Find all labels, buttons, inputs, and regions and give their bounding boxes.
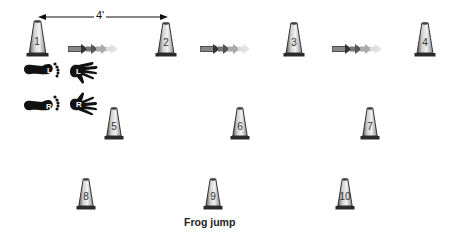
cone-number: 7 [360,121,380,132]
svg-text:L: L [47,66,52,75]
direction-arrow-icon [332,41,388,59]
right-foot-icon: R [22,94,64,114]
cone-6: 6 [230,107,250,140]
direction-arrow-icon [200,41,256,59]
cone-number: 9 [203,191,223,202]
cone-3: 3 [283,22,305,57]
cone-number: 1 [26,36,49,47]
left-hand-icon: L [68,60,100,84]
cone-number: 3 [283,37,305,48]
cone-9: 9 [203,178,223,210]
cone-number: 10 [335,191,355,202]
svg-text:R: R [46,102,52,111]
cone-4: 4 [414,22,436,57]
svg-text:L: L [76,67,81,76]
figure-caption: Frog jump [184,216,235,228]
direction-arrow-icon [68,41,124,59]
cone-number: 6 [230,121,250,132]
cone-7: 7 [360,107,380,140]
dimension-label: 4' [94,9,106,21]
svg-text:R: R [76,100,82,109]
cone-5: 5 [104,107,124,140]
hand-foot-legend: L L R R [22,60,102,118]
cone-number: 5 [104,121,124,132]
cone-number: 4 [414,37,436,48]
cone-2: 2 [155,22,177,57]
cone-10: 10 [335,178,355,210]
cone-1: 1 [26,20,49,57]
right-hand-icon: R [68,92,100,116]
cone-number: 8 [76,191,96,202]
cone-8: 8 [76,178,96,210]
left-foot-icon: L [22,60,64,80]
cone-number: 2 [155,37,177,48]
